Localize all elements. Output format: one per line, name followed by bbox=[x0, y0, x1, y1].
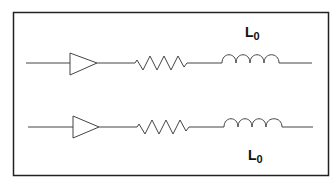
bottom-circuit-line bbox=[28, 116, 313, 138]
diagram-frame bbox=[14, 13, 329, 176]
resistor-icon bbox=[137, 120, 189, 134]
bottom-inductor-label: L0 bbox=[248, 147, 263, 165]
inductor-icon bbox=[222, 55, 279, 63]
top-circuit-line bbox=[26, 53, 312, 75]
circuit-diagram bbox=[0, 0, 334, 182]
top-inductor-label: L0 bbox=[245, 24, 260, 42]
resistor-icon bbox=[135, 56, 187, 70]
amplifier-icon bbox=[70, 53, 97, 75]
inductor-icon bbox=[224, 119, 282, 127]
amplifier-icon bbox=[73, 116, 99, 138]
